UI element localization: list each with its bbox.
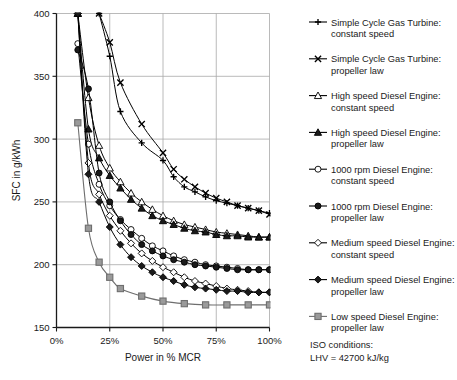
data-point-circle-filled	[315, 203, 321, 209]
square-marker	[245, 302, 251, 308]
y-tick-label: 200	[34, 259, 50, 270]
data-point-circle-filled	[245, 267, 251, 273]
square-marker	[75, 120, 81, 126]
legend-label-line1: High speed Diesel Engine:	[331, 128, 441, 138]
circle-marker	[128, 232, 134, 238]
y-tick-label: 300	[34, 134, 50, 145]
circle-marker	[192, 262, 198, 268]
legend-label-line1: 1000 rpm Diesel Engine:	[331, 165, 433, 175]
circle-marker	[245, 267, 251, 273]
y-tick-label: 250	[34, 196, 50, 207]
data-point-circle-filled	[256, 267, 262, 273]
legend-label-line2: constant speed	[331, 176, 394, 186]
square-marker	[139, 293, 145, 299]
legend-label-line1: Simple Cycle Gas Turbine:	[331, 54, 441, 64]
data-point-circle-filled	[149, 248, 155, 254]
legend-label-line1: Medium speed Diesel Engine:	[331, 238, 455, 248]
circle-marker	[203, 263, 209, 269]
circle-marker	[139, 235, 145, 241]
legend-label-line2: propeller law	[331, 66, 384, 76]
circle-marker	[139, 242, 145, 248]
legend-label-line2: propeller law	[331, 287, 384, 297]
legend-label-line1: Simple Cycle Gas Turbine:	[331, 18, 441, 28]
y-axis-title: SFC in g/kWh	[11, 140, 22, 202]
sfc-vs-power-chart: 1502002503003504000%25%50%75%100% SFC in…	[0, 0, 457, 380]
circle-marker	[315, 203, 321, 209]
data-point-circle-filled	[85, 86, 91, 92]
data-point-square	[139, 293, 145, 299]
legend-label-line1: 1000 rpm Diesel Engine:	[331, 202, 433, 212]
x-tick-label: 50%	[153, 335, 173, 346]
circle-marker	[160, 253, 166, 259]
data-point-square	[107, 274, 113, 280]
circle-marker	[213, 264, 219, 270]
legend-label-line2: constant speed	[331, 29, 394, 39]
data-point-square	[203, 302, 209, 308]
data-point-circle-filled	[213, 264, 219, 270]
data-point-square	[160, 298, 166, 304]
circle-marker	[224, 265, 230, 271]
x-tick-label: 100%	[257, 335, 282, 346]
square-marker	[160, 298, 166, 304]
data-point-circle-filled	[203, 263, 209, 269]
legend-label-line2: constant speed	[331, 103, 394, 113]
data-point-circle-open	[315, 166, 321, 172]
data-point-square	[117, 285, 123, 291]
y-tick-label: 150	[34, 322, 50, 333]
data-point-circle-filled	[192, 262, 198, 268]
circle-marker	[315, 166, 321, 172]
data-point-circle-filled	[107, 199, 113, 205]
data-point-square	[75, 120, 81, 126]
circle-marker	[235, 267, 241, 273]
circle-marker	[96, 170, 102, 176]
chart-root: 1502002503003504000%25%50%75%100% SFC in…	[0, 0, 457, 380]
square-marker	[107, 274, 113, 280]
data-point-circle-filled	[128, 232, 134, 238]
data-point-square	[181, 301, 187, 307]
data-point-square	[224, 302, 230, 308]
legend-label-line2: propeller law	[331, 139, 384, 149]
data-point-circle-filled	[171, 257, 177, 263]
circle-marker	[256, 267, 262, 273]
data-point-circle-filled	[96, 170, 102, 176]
square-marker	[85, 225, 91, 231]
y-tick-label: 400	[34, 8, 50, 19]
data-point-circle-filled	[181, 259, 187, 265]
data-point-square	[96, 259, 102, 265]
data-point-square	[315, 313, 321, 319]
data-point-square	[245, 302, 251, 308]
circle-marker	[117, 218, 123, 224]
data-point-circle-filled	[235, 267, 241, 273]
square-marker	[96, 259, 102, 265]
lhv-value-label: LHV = 42700 kJ/kg	[310, 353, 389, 363]
data-point-square	[85, 225, 91, 231]
y-tick-label: 350	[34, 71, 50, 82]
data-point-circle-filled	[224, 265, 230, 271]
data-point-circle-filled	[117, 218, 123, 224]
x-tick-label: 75%	[207, 335, 227, 346]
legend-label-line2: constant speed	[331, 250, 394, 260]
data-point-circle-filled	[139, 242, 145, 248]
square-marker	[117, 285, 123, 291]
legend-label-line1: Low speed Diesel Engine:	[331, 312, 439, 322]
data-point-circle-open	[139, 235, 145, 241]
square-marker	[203, 302, 209, 308]
square-marker	[224, 302, 230, 308]
circle-marker	[107, 199, 113, 205]
legend-label-line1: Medium speed Diesel Engine:	[331, 275, 455, 285]
legend-label-line2: propeller law	[331, 323, 384, 333]
x-tick-label: 25%	[100, 335, 120, 346]
circle-marker	[149, 248, 155, 254]
x-axis-title: Power in % MCR	[125, 352, 201, 363]
circle-marker	[171, 257, 177, 263]
circle-marker	[85, 86, 91, 92]
legend-label-line1: High speed Diesel Engine:	[331, 91, 441, 101]
square-marker	[315, 313, 321, 319]
square-marker	[181, 301, 187, 307]
x-tick-label: 0%	[50, 335, 64, 346]
legend-label-line2: propeller law	[331, 213, 384, 223]
data-point-circle-filled	[160, 253, 166, 259]
circle-marker	[181, 259, 187, 265]
iso-conditions-label: ISO conditions:	[310, 340, 373, 350]
